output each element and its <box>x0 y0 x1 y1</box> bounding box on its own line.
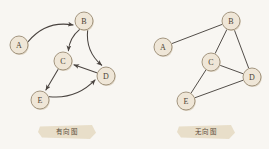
diagram-svg: ABCDEABCDE 有向图无向图 <box>0 0 269 149</box>
caption-undirected-graph: 无向图 <box>177 125 235 139</box>
graph-diagram-canvas: ABCDEABCDE 有向图无向图 <box>0 0 269 149</box>
node-label: C <box>208 58 213 67</box>
node-label: C <box>60 57 65 66</box>
node-label: D <box>249 73 255 82</box>
node-label: E <box>38 96 43 105</box>
edge-B-D <box>234 30 248 68</box>
node-label: B <box>228 17 233 26</box>
node-label: A <box>16 41 22 50</box>
edge-B-D <box>87 30 101 65</box>
edge-E-D <box>195 80 243 97</box>
edge-C-E <box>46 69 58 90</box>
node-label: B <box>81 17 86 26</box>
node-directed-graph-D[interactable]: D <box>97 67 116 86</box>
edge-A-B <box>28 24 73 41</box>
edge-C-D <box>220 65 243 73</box>
caption-label: 有向图 <box>56 127 78 136</box>
node-label: A <box>160 43 166 52</box>
captions-layer: 有向图无向图 <box>38 125 235 139</box>
node-undirected-graph-C[interactable]: C <box>202 53 221 72</box>
node-directed-graph-C[interactable]: C <box>54 52 73 71</box>
edge-E-D <box>49 80 95 97</box>
edge-C-E <box>191 70 205 92</box>
edge-B-C <box>215 30 226 53</box>
node-label: D <box>103 72 109 81</box>
edge-B-C <box>68 30 79 51</box>
node-undirected-graph-D[interactable]: D <box>243 68 262 87</box>
caption-directed-graph: 有向图 <box>38 125 96 139</box>
node-undirected-graph-A[interactable]: A <box>154 38 173 57</box>
edge-A-B <box>172 24 222 43</box>
edge-D-C <box>74 65 97 73</box>
node-directed-graph-B[interactable]: B <box>75 12 94 31</box>
node-undirected-graph-E[interactable]: E <box>177 92 196 111</box>
node-directed-graph-E[interactable]: E <box>31 91 50 110</box>
node-label: E <box>184 97 189 106</box>
node-undirected-graph-B[interactable]: B <box>222 12 241 31</box>
node-directed-graph-A[interactable]: A <box>10 36 29 55</box>
caption-label: 无向图 <box>195 127 217 136</box>
